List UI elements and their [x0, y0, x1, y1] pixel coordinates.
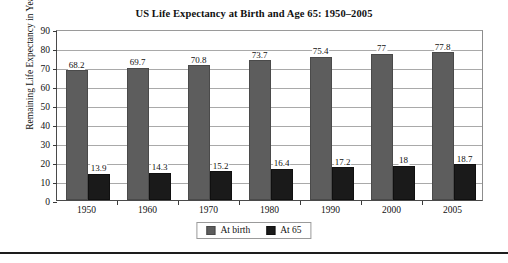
- bar-value-label: 18.7: [456, 155, 474, 164]
- x-axis-label-2005: 2005: [443, 205, 462, 215]
- y-axis-tick: [53, 31, 57, 32]
- y-axis-label: 90: [41, 26, 51, 36]
- bar-at-65-1960: 14.3: [149, 173, 171, 200]
- bar-value-label: 17.2: [334, 158, 352, 167]
- x-axis-label-1960: 1960: [138, 205, 157, 215]
- bar-at-65-2005: 18.7: [454, 164, 476, 200]
- bar-value-label: 68.2: [68, 61, 86, 70]
- y-axis-label: 50: [41, 102, 51, 112]
- y-axis-label: 60: [41, 83, 51, 93]
- bar-at-birth-1960: 69.7: [127, 68, 149, 200]
- bar-at-birth-1970: 70.8: [188, 65, 210, 200]
- x-axis-label-1980: 1980: [260, 205, 279, 215]
- bar-at-birth-1980: 73.7: [249, 60, 271, 200]
- x-axis-label-1970: 1970: [199, 205, 218, 215]
- y-axis-tick: [53, 107, 57, 108]
- bar-value-label: 69.7: [129, 58, 147, 67]
- bottom-rule-divider: [0, 252, 508, 254]
- y-axis-tick: [53, 88, 57, 89]
- legend-label: At birth: [220, 225, 250, 235]
- bar-at-birth-1950: 68.2: [66, 70, 88, 200]
- bar-value-label: 75.4: [312, 47, 330, 56]
- legend-swatch-icon: [266, 226, 275, 235]
- bar-at-65-2000: 18: [393, 166, 415, 200]
- bar-value-label: 77: [376, 44, 387, 53]
- x-axis-tick: [300, 201, 301, 205]
- y-axis-label: 30: [41, 140, 51, 150]
- x-axis-tick: [361, 201, 362, 205]
- y-axis-label: 40: [41, 121, 51, 131]
- legend-item-at-birth[interactable]: At birth: [206, 225, 250, 235]
- bar-at-birth-1990: 75.4: [310, 57, 332, 200]
- y-axis-title: Remaining Life Expectancy in Years: [25, 0, 35, 150]
- chart-legend: At birthAt 65: [196, 222, 311, 239]
- bar-at-65-1990: 17.2: [332, 167, 354, 200]
- y-axis-label: 20: [41, 159, 51, 169]
- bar-value-label: 15.2: [212, 162, 230, 171]
- bar-value-label: 16.4: [273, 159, 291, 168]
- bar-value-label: 77.8: [434, 43, 452, 52]
- x-axis-label-1950: 1950: [77, 205, 96, 215]
- chart-title: US Life Expectancy at Birth and Age 65: …: [0, 8, 508, 19]
- bar-value-label: 70.8: [190, 56, 208, 65]
- bar-at-65-1970: 15.2: [210, 171, 232, 200]
- x-axis-tick: [117, 201, 118, 205]
- legend-item-at-65[interactable]: At 65: [266, 225, 301, 235]
- y-axis-tick: [53, 202, 57, 203]
- bar-value-label: 14.3: [151, 163, 169, 172]
- x-axis-tick: [178, 201, 179, 205]
- x-axis-label-1990: 1990: [321, 205, 340, 215]
- y-axis-tick: [53, 50, 57, 51]
- x-axis-label-2000: 2000: [382, 205, 401, 215]
- legend-swatch-icon: [206, 226, 215, 235]
- bar-at-birth-2005: 77.8: [432, 52, 454, 200]
- y-axis-tick: [53, 145, 57, 146]
- y-axis-tick: [53, 164, 57, 165]
- y-axis-label: 70: [41, 64, 51, 74]
- y-axis-tick: [53, 69, 57, 70]
- y-axis-label: 0: [45, 197, 50, 207]
- y-axis-tick: [53, 126, 57, 127]
- plot-area: 010203040506070809068.213.969.714.370.81…: [56, 30, 483, 201]
- y-axis-label: 80: [41, 45, 51, 55]
- y-axis-tick: [53, 183, 57, 184]
- bar-at-birth-2000: 77: [371, 54, 393, 200]
- gridline: [57, 50, 482, 51]
- bar-value-label: 13.9: [90, 164, 108, 173]
- bar-at-65-1980: 16.4: [271, 169, 293, 200]
- chart-figure: US Life Expectancy at Birth and Age 65: …: [0, 0, 508, 263]
- x-axis-tick: [422, 201, 423, 205]
- y-axis-label: 10: [41, 178, 51, 188]
- x-axis-tick: [239, 201, 240, 205]
- bar-at-65-1950: 13.9: [88, 174, 110, 200]
- bar-value-label: 18: [398, 156, 409, 165]
- bar-value-label: 73.7: [251, 51, 269, 60]
- legend-label: At 65: [280, 225, 301, 235]
